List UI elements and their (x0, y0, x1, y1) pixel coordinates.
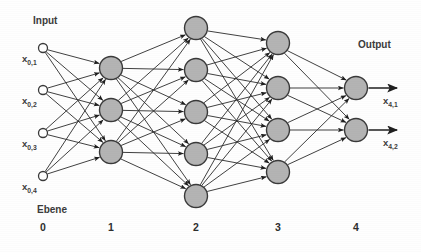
connection-edge (123, 152, 184, 153)
connection-edge (48, 157, 100, 174)
connection-edge (202, 54, 273, 143)
connection-edge (46, 94, 103, 143)
hidden-node (185, 101, 208, 124)
hidden-node (185, 59, 208, 82)
hidden-node (267, 161, 290, 184)
node-variable-label: x0,4 (22, 181, 37, 195)
hidden-node (267, 77, 290, 100)
connection-edge (204, 37, 269, 80)
connection-edge (121, 35, 185, 62)
hidden-node (100, 57, 123, 80)
connection-edge (45, 52, 105, 140)
hidden-node (267, 32, 290, 55)
hidden-node (267, 119, 290, 142)
hidden-node (100, 99, 123, 122)
hidden-node (100, 141, 123, 164)
node-variable-label: x0,2 (22, 95, 37, 109)
output-title-label: Output (358, 39, 391, 50)
ebene-caption-label: Ebene (37, 204, 67, 215)
node-variable-label: x0,3 (22, 138, 37, 152)
connection-edge (116, 39, 190, 141)
input-node (39, 86, 48, 95)
neural-network-diagram: x0,1x0,2x0,3x0,4x4,1x4,2InputOutputEbene… (0, 0, 421, 252)
neuron-nodes (39, 17, 368, 208)
connection-edge (288, 138, 347, 165)
layer-number-4: 4 (353, 221, 359, 233)
connection-edge (48, 135, 100, 148)
network-canvas: x0,1x0,2x0,3x0,4x4,1x4,2InputOutputEbene… (0, 0, 421, 252)
hidden-node (185, 17, 208, 40)
node-variable-label: x0,1 (22, 53, 37, 67)
connection-edge (46, 120, 103, 172)
connection-edge (208, 31, 266, 40)
layer-number-1: 1 (108, 221, 114, 233)
layer-number-2: 2 (193, 221, 199, 233)
connection-edge (207, 48, 267, 65)
node-variable-label: x4,1 (383, 95, 398, 109)
output-node (345, 77, 368, 100)
layer-number-3: 3 (275, 221, 281, 233)
connection-edge (204, 139, 270, 187)
connection-edge (48, 50, 100, 64)
connection-edge (207, 177, 266, 192)
input-node (39, 44, 48, 53)
input-title-label: Input (33, 15, 58, 26)
hidden-node (185, 143, 208, 166)
connection-edge (202, 99, 272, 186)
input-node (39, 172, 48, 181)
connection-edge (204, 53, 270, 103)
connection-edge (207, 93, 266, 108)
connection-edge (46, 52, 103, 101)
connection-edge (46, 78, 103, 129)
input-node (39, 129, 48, 138)
node-variable-label: x4,2 (383, 137, 398, 151)
hidden-node (185, 185, 208, 208)
layer-number-0: 0 (40, 221, 46, 233)
output-node (345, 119, 368, 142)
